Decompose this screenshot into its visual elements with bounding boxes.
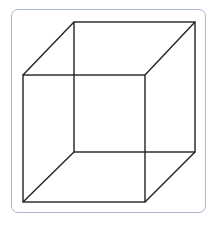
necker-cube-diagram	[0, 0, 220, 226]
edge-bottom-left	[23, 152, 74, 202]
edge-top-right	[145, 22, 195, 75]
edge-bottom-right	[145, 152, 195, 202]
front-face	[23, 75, 145, 202]
edge-top-left	[23, 22, 74, 75]
